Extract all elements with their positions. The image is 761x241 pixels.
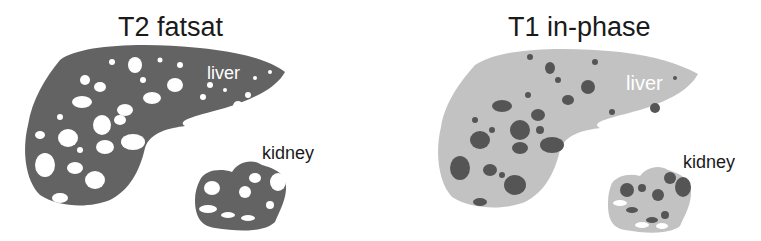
liver-label: liver [207, 63, 240, 84]
liver-label: liver [626, 72, 663, 95]
kidney-label: kidney [262, 143, 314, 164]
liver-kidney-illustration [380, 0, 761, 241]
liver-kidney-illustration [0, 0, 380, 241]
panel-t1-in-phase: T1 in-phase liver kidney [380, 0, 761, 241]
panel-t2-fatsat: T2 fatsat live [0, 0, 380, 241]
kidney-shape [608, 167, 691, 233]
kidney-label: kidney [683, 152, 735, 173]
